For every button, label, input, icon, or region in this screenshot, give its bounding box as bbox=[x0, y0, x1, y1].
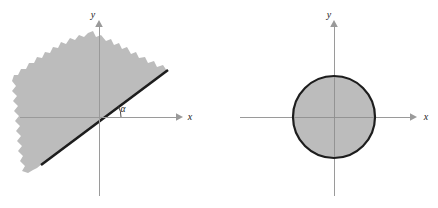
y-axis-label: y bbox=[90, 9, 96, 20]
angle-alpha-label: α bbox=[121, 104, 127, 114]
y-axis-arrowhead bbox=[95, 20, 103, 27]
x-axis-label: x bbox=[187, 111, 193, 122]
panel-half-plane: y x α bbox=[0, 0, 219, 208]
x-axis-arrowhead bbox=[410, 113, 417, 121]
disk-diagram: y x bbox=[219, 0, 438, 208]
y-axis-arrowhead bbox=[330, 20, 338, 27]
shaded-half-plane-region bbox=[12, 31, 167, 173]
half-plane-diagram: y x α bbox=[0, 0, 219, 208]
y-axis-label: y bbox=[326, 9, 332, 20]
x-axis-label: x bbox=[423, 111, 429, 122]
x-axis-arrowhead bbox=[176, 113, 183, 121]
figure-root: y x α y x bbox=[0, 0, 438, 208]
panel-disk: y x bbox=[219, 0, 438, 208]
